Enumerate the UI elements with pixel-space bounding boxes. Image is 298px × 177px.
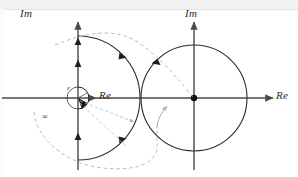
epsilon-label: ε [67,85,70,92]
left-im-arrow-mid [75,38,82,46]
mapping-arc-tail [157,106,167,128]
figure-canvas: Im Re ε ∞ Im Re [0,0,298,177]
left-epsilon-radius [78,93,88,98]
left-re-axis-label: Re [99,90,111,101]
mapping-arc-bottom [34,112,157,169]
diagram-svg [0,0,298,177]
left-plane-group [2,22,140,170]
left-infinity-radius [80,101,134,122]
right-plane-group [96,22,273,170]
left-im-axis-label: Im [20,8,32,19]
right-re-axis-label: Re [276,90,288,101]
infinity-label: ∞ [42,113,48,121]
right-im-axis-label: Im [185,8,197,19]
left-im-arrow-lower [75,133,82,141]
left-im-arrow-upper [75,60,82,68]
